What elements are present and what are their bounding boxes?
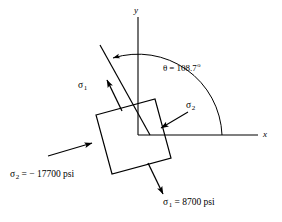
angle-label: θ=108.7o [163,62,200,73]
sigma1-subscript: 1 [83,84,87,92]
sigma2-callout-text: = − 17700 psi [19,169,74,179]
diagram-canvas [0,0,282,222]
x-axis-label: x [263,130,267,139]
sigma2-label-inner: σ2 [186,101,195,112]
sigma1-callout-text: = 8700 psi [172,197,215,207]
sigma2-arrow-inner [161,112,188,128]
sigma1-value-callout: σ1 = 8700 psi [163,198,215,209]
sigma2-value-callout: σ2 = − 17700 psi [10,170,74,181]
y-axis-label: y [134,6,138,15]
stress-element-square [96,99,171,174]
degree-symbol: o [197,61,201,68]
sigma1-label-upper: σ1 [78,81,87,92]
sigma2-arrow-outer [48,143,92,156]
sigma1-arrow-upper [107,80,122,111]
angle-value: 108.7 [176,63,196,73]
sigma1-arrow-lower [148,163,163,194]
sigma2-subscript: 2 [191,104,195,112]
sigma1-axis-line [100,45,150,135]
stress-element-figure: y x θ=108.7o σ1 σ2 σ2 = − 17700 psi σ1 =… [0,0,282,222]
coordinate-axes [138,17,258,135]
